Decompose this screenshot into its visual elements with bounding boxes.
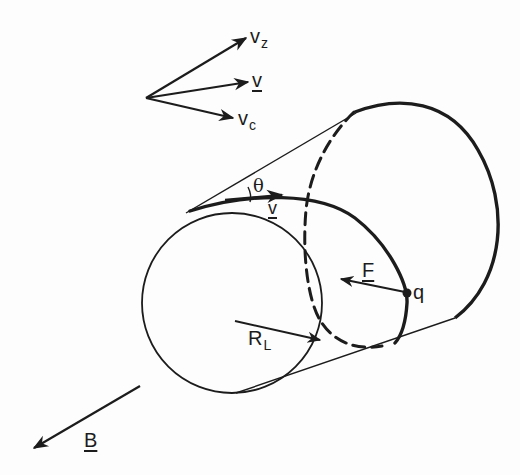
v-symbol: v [252,69,262,91]
b-field-label: B [84,430,97,450]
vz-symbol: v [250,25,260,47]
vz-label: vz [250,26,268,46]
charge-point [403,289,412,298]
force-label: F [362,260,374,280]
helix-front-arc [190,198,407,343]
helix-velocity-label: v [268,199,277,217]
vc-subscript: c [249,117,256,133]
front-circle [142,213,322,393]
vc-arrow [146,98,233,118]
charge-label: q [413,282,424,302]
figure-canvas: vz v vc θ v F q RL B [0,0,520,475]
velocity-vectors [146,38,248,118]
larmor-radius-label: RL [248,328,271,348]
vc-symbol: v [238,107,248,129]
vz-subscript: z [261,35,268,51]
radius-symbol: R [248,327,262,349]
vz-arrow [146,38,246,98]
guiding-cylinder [142,103,498,393]
vc-label: vc [238,108,256,128]
v-label: v [252,70,262,90]
radius-subscript: L [263,337,271,353]
theta-label: θ [253,177,264,195]
